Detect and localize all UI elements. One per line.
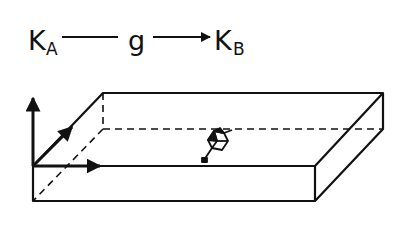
slab-front-face	[33, 166, 315, 201]
diagram-canvas	[0, 0, 404, 225]
crystal-cube-icon	[202, 128, 232, 162]
coordinate-axes	[33, 98, 100, 166]
y-axis-arrow	[33, 127, 72, 166]
slab	[33, 93, 383, 201]
slab-right-face	[315, 93, 383, 201]
